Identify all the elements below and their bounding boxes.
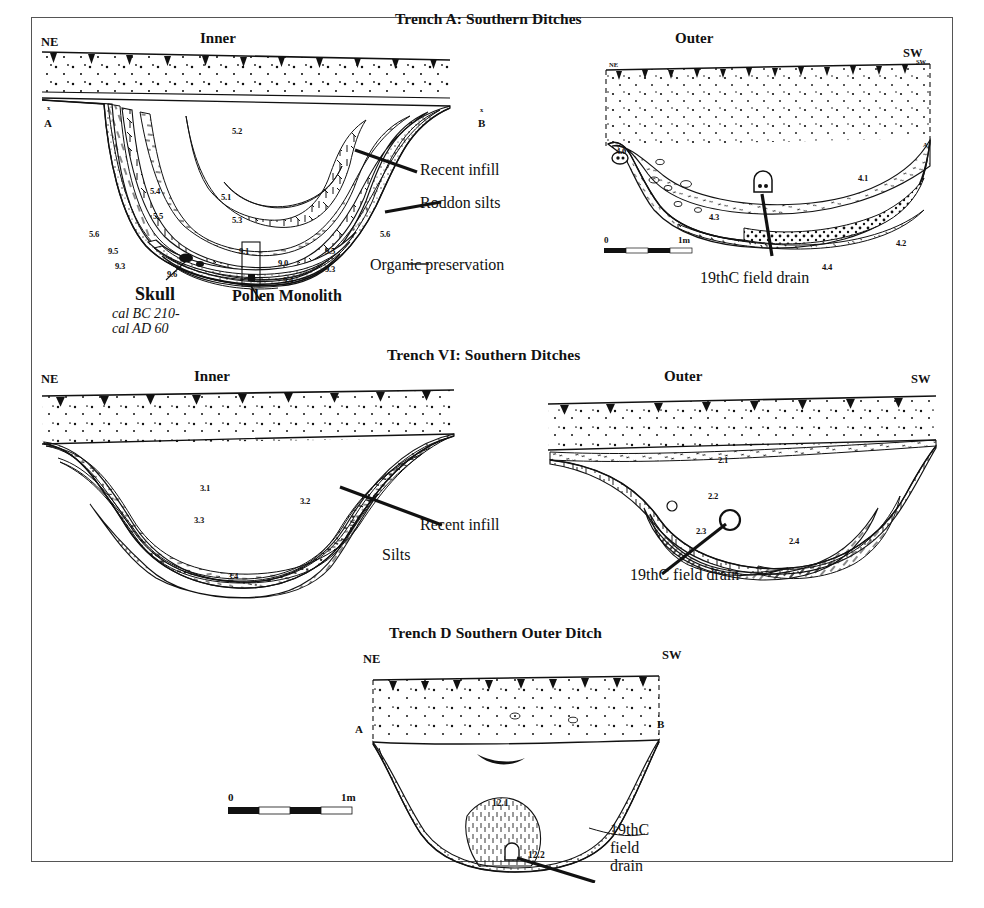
section-heading-outer-vi: Outer (664, 368, 702, 385)
find-label-pollen-monolith: Pollen Monolith (232, 287, 342, 305)
trench-vi-outer-drawing (544, 390, 944, 590)
context-label: 5.3 (232, 215, 242, 225)
direction-label-sw-vi: SW (911, 372, 930, 387)
context-label: 3.2 (300, 496, 310, 506)
annotation-field-drain-vi: 19thC field drain (630, 566, 739, 584)
context-label: 5.5 (153, 211, 163, 221)
context-label: 5.2 (232, 126, 242, 136)
context-label: 2.2 (708, 491, 718, 501)
context-label: 4.2 (896, 238, 906, 248)
scale-bar-label-left: 0 (228, 791, 234, 803)
context-label: 4.4 (822, 262, 832, 272)
panel-title-trench-d: Trench D Southern Outer Ditch (389, 624, 602, 642)
panel-title-trench-vi: Trench VI: Southern Ditches (387, 346, 580, 364)
context-label: 9.0 (278, 258, 288, 268)
scale-bar-label-left: 0 (604, 235, 609, 245)
annotation-field-drain-a: 19thC field drain (700, 269, 809, 287)
figure-page: Trench A: Southern Ditches NE Inner (0, 0, 984, 908)
corner-mark-x-right: x (480, 106, 483, 113)
section-heading-inner-a: Inner (200, 30, 236, 47)
trench-a-outer-drawing (594, 58, 944, 268)
context-label: 12.2 (528, 850, 545, 860)
context-label: 12.1 (492, 798, 509, 808)
context-label: 9.4 (283, 275, 293, 285)
context-label: 2.4 (789, 536, 799, 546)
corner-mark-ne-outer: NE (609, 61, 618, 68)
context-label: 9.3 (325, 264, 335, 274)
context-label: 5.4 (150, 186, 160, 196)
trench-d-drawing (359, 668, 689, 883)
scale-bar-graphic (228, 805, 360, 817)
find-label-skull: Skull (135, 284, 175, 305)
corner-mark-x-left: x (47, 104, 50, 111)
panel-title-trench-a: Trench A: Southern Ditches (395, 10, 582, 28)
context-label: 2.1 (718, 455, 728, 465)
figure-caption (60, 892, 940, 906)
annotation-silts: Silts (382, 546, 410, 564)
context-label: 9.1 (239, 246, 249, 256)
context-label: 3.1 (200, 483, 210, 493)
scale-bar-label-right: 1m (678, 235, 690, 245)
annotation-organic-preservation: Organic preservation (370, 256, 504, 274)
scale-bar-graphic (604, 246, 696, 256)
context-label: 4.0 (616, 146, 626, 156)
direction-label-sw-d: SW (662, 648, 681, 663)
scale-bar-label-right: 1m (341, 791, 356, 803)
section-heading-inner-vi: Inner (194, 368, 230, 385)
corner-mark-a-left: A (44, 117, 52, 129)
find-date-skull-line2: cal AD 60 (112, 321, 169, 337)
annotation-recent-infill-vi: Recent infill (420, 516, 500, 534)
figure-frame: Trench A: Southern Ditches NE Inner (31, 17, 953, 862)
context-label: 4.3 (709, 212, 719, 222)
context-label: 9.3 (115, 261, 125, 271)
context-label: 5.1 (221, 192, 231, 202)
find-date-skull-line1: cal BC 210- (112, 306, 180, 322)
context-label: 3.3 (194, 515, 204, 525)
corner-mark-b-right: B (478, 117, 485, 129)
direction-label-ne-vi: NE (41, 372, 58, 387)
context-label: 9.6 (167, 269, 177, 279)
corner-mark-b-d: B (657, 718, 664, 730)
corner-mark-a-outer: A (923, 141, 928, 148)
corner-mark-sw-outer: SW (916, 58, 926, 65)
context-label: 5.6 (89, 229, 99, 239)
annotation-field-drain-d-line2: field (610, 839, 639, 857)
annotation-field-drain-d-line1: 19thC (610, 821, 649, 839)
direction-label-ne-d: NE (363, 652, 380, 667)
context-label: 3.4 (228, 571, 238, 581)
annotation-field-drain-d-line3: drain (610, 857, 643, 875)
annotation-roddon-silts: Roddon silts (420, 194, 500, 212)
annotation-recent-infill: Recent infill (420, 161, 500, 179)
section-heading-outer-a: Outer (675, 30, 713, 47)
corner-mark-a-d: A (355, 723, 363, 735)
context-label: 4.1 (858, 173, 868, 183)
context-label: 2.3 (696, 526, 706, 536)
context-label: 9.5 (108, 246, 118, 256)
context-label: 9.5 (325, 246, 335, 256)
